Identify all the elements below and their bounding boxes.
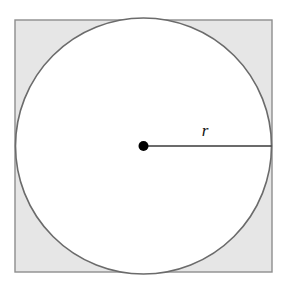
figure-container: r xyxy=(0,0,285,285)
radius-label: r xyxy=(202,121,209,140)
geometry-diagram: r xyxy=(0,0,285,285)
center-point xyxy=(139,141,149,151)
